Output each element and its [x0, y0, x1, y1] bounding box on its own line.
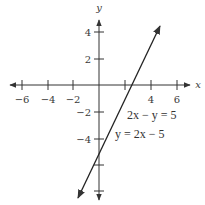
- y-tick-label: 2: [85, 54, 91, 65]
- x-tick-label: −4: [41, 94, 56, 105]
- coordinate-plane: −6 −4 −2 4 6 4 2 −2 −4 y x 2x − y = 5 y …: [0, 0, 205, 205]
- y-tick-label: −2: [76, 107, 91, 118]
- x-axis-label: x: [195, 79, 201, 90]
- x-tick-label: 4: [148, 94, 154, 105]
- y-tick-label: 4: [85, 27, 91, 38]
- x-tick-label: −6: [15, 94, 30, 105]
- y-axis-label: y: [95, 2, 102, 13]
- x-tick-label: −2: [66, 94, 81, 105]
- y-tick-label: −4: [76, 134, 91, 145]
- equation-slope-intercept-form: y = 2x − 5: [115, 127, 165, 141]
- x-tick-label: 6: [174, 94, 180, 105]
- x-tick-labels: −6 −4 −2 4 6: [15, 94, 181, 105]
- equation-standard-form: 2x − y = 5: [127, 108, 177, 122]
